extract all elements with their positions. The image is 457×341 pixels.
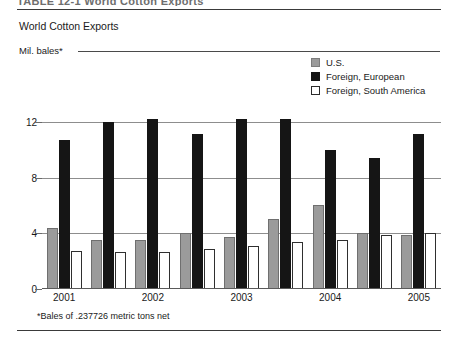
bar-us [357,233,368,289]
bar-foreign-european [280,119,291,289]
bar-foreign-south-america [425,233,436,289]
bar-us [47,228,58,289]
bar-group [268,108,303,289]
legend-label-foreign-south-america: Foreign, South America [326,85,425,96]
bar-us [180,233,191,289]
legend-item-foreign-european: Foreign, European [311,70,425,82]
bar-foreign-european [103,122,114,289]
bar-foreign-south-america [337,240,348,289]
chart-legend: U.S. Foreign, European Foreign, South Am… [311,56,425,96]
bar-groups [42,108,441,289]
bar-group [313,108,348,289]
bar-us [401,235,412,289]
bar-foreign-south-america [381,235,392,289]
y-tick-mark [35,178,42,179]
clipped-table-title: TABLE 12-1 World Cotton Exports [17,0,267,6]
x-tick-label: 2005 [408,292,430,303]
chart-page: TABLE 12-1 World Cotton Exports World Co… [0,0,457,341]
unit-rule [78,51,440,52]
bar-foreign-european [325,150,336,289]
sa-swatch-icon [311,86,320,95]
legend-label-us: U.S. [326,57,344,68]
bar-foreign-european [413,134,424,289]
x-axis-labels: 20012002200320042005 [42,292,441,306]
bar-foreign-european [192,134,203,289]
legend-item-foreign-south-america: Foreign, South America [311,84,425,96]
plot-area: 04812 [42,108,441,289]
top-rule [17,9,441,10]
x-tick-label: 2003 [230,292,252,303]
bar-group [401,108,436,289]
bottom-rule [17,330,441,331]
legend-item-us: U.S. [311,56,425,68]
bar-foreign-european [147,119,158,289]
bar-group [224,108,259,289]
bar-us [224,237,235,289]
bar-foreign-south-america [248,246,259,289]
bar-us [135,240,146,289]
bar-foreign-south-america [292,242,303,289]
bar-group [357,108,392,289]
eu-swatch-icon [311,72,320,81]
y-tick-mark [35,233,42,234]
bar-us [268,219,279,289]
bar-group [135,108,170,289]
bar-foreign-south-america [115,252,126,289]
y-tick-mark [35,122,42,123]
bar-foreign-south-america [159,252,170,289]
bar-group [47,108,82,289]
y-tick-mark [35,289,42,290]
bar-foreign-south-america [204,249,215,289]
bar-foreign-european [369,158,380,289]
legend-label-foreign-european: Foreign, European [326,71,405,82]
bar-us [313,205,324,289]
bar-group [91,108,126,289]
chart-title: World Cotton Exports [19,20,119,32]
x-tick-label: 2004 [319,292,341,303]
bar-foreign-european [236,119,247,289]
us-swatch-icon [311,58,320,67]
x-tick-label: 2002 [142,292,164,303]
x-axis-baseline [42,288,441,289]
bar-us [91,240,102,289]
chart-footnote: *Bales of .237726 metric tons net [37,311,170,321]
y-axis-unit-label: Mil. bales* [19,45,63,56]
x-tick-label: 2001 [53,292,75,303]
bar-foreign-south-america [71,251,82,289]
bar-group [180,108,215,289]
bar-foreign-european [59,140,70,289]
